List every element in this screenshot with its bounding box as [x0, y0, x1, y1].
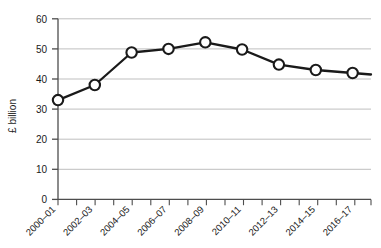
data-point-2006–07: [163, 44, 173, 54]
x-tick-label-2002-03: 2002–03: [61, 204, 95, 238]
y-tick-label-10: 10: [36, 164, 48, 175]
y-axis-title: £ billion: [7, 99, 18, 133]
y-tick-label-60: 60: [36, 14, 48, 25]
data-point-2004–05: [126, 47, 136, 57]
data-point-2016–17: [347, 68, 357, 78]
line-chart: 60 50 40 30 20 10 0 £ billion: [0, 0, 381, 248]
x-tick-label-2012-13: 2012–13: [246, 204, 280, 238]
x-tick-label-2006-07: 2006–07: [135, 204, 169, 238]
x-axis-tick-labels: 2000–01 2002–03 2004–05 2006–07 2008–09 …: [23, 204, 354, 238]
y-axis-tick-labels: 60 50 40 30 20 10 0: [36, 14, 48, 206]
y-axis-ticks: [52, 19, 58, 200]
data-point-2002–03: [90, 80, 100, 90]
x-tick-label-2014-15: 2014–15: [283, 204, 317, 238]
y-tick-label-30: 30: [36, 104, 48, 115]
x-tick-label-2000-01: 2000–01: [23, 204, 57, 238]
data-point-2010–11: [237, 44, 247, 54]
x-tick-label-2016-17: 2016–17: [320, 204, 354, 238]
y-tick-label-50: 50: [36, 44, 48, 55]
x-tick-label-2004-05: 2004–05: [98, 204, 132, 238]
data-point-2014–15: [311, 65, 321, 75]
x-tick-label-2010-11: 2010–11: [209, 204, 242, 237]
x-axis-ticks: [58, 199, 371, 205]
y-tick-label-0: 0: [41, 194, 47, 205]
y-tick-label-40: 40: [36, 74, 48, 85]
y-tick-label-20: 20: [36, 134, 48, 145]
data-point-2008–09: [200, 37, 210, 47]
data-point-2000–01: [53, 95, 63, 105]
data-point-2012–13: [274, 59, 284, 69]
x-tick-label-2008-09: 2008–09: [172, 204, 206, 238]
chart-container: 60 50 40 30 20 10 0 £ billion: [0, 0, 381, 248]
